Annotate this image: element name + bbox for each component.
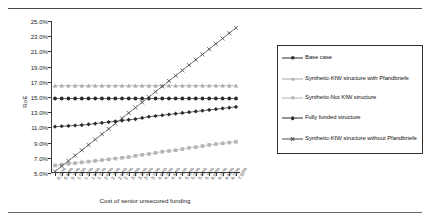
- legend-item-1[interactable]: Synthetic-KfW structure with Pfandbriefe: [282, 75, 419, 83]
- y-tick-mark: [48, 173, 51, 174]
- y-tick-label: 5.0%: [34, 170, 48, 177]
- y-tick-label: 15.0%: [31, 94, 48, 101]
- legend-label: Fully funded structure: [305, 114, 361, 122]
- y-tick-label: 7.0%: [34, 154, 48, 161]
- legend-item-0[interactable]: Base case: [282, 54, 419, 62]
- bottom-rule: [8, 212, 422, 213]
- series-2: [53, 140, 238, 167]
- series-1: [53, 83, 238, 87]
- legend-label: Synthetic-Not KfW structure: [305, 94, 376, 102]
- series-0: [53, 105, 238, 129]
- legend-item-2[interactable]: Synthetic-Not KfW structure: [282, 94, 419, 102]
- top-rule: [8, 8, 422, 9]
- x-axis-title: Cost of senior unsecured funding: [50, 197, 240, 204]
- legend-swatch-circle-icon: [282, 115, 303, 122]
- y-tick-label: 21.0%: [31, 48, 48, 55]
- legend-swatch-square-icon: [282, 95, 303, 102]
- legend-item-3[interactable]: Fully funded structure: [282, 114, 419, 122]
- chart-figure: RoE Cost of senior unsecured funding 25.…: [0, 0, 430, 220]
- y-tick-label: 19.0%: [31, 63, 48, 70]
- plot-area: [51, 21, 240, 173]
- y-tick-label: 11.0%: [31, 124, 48, 131]
- legend-swatch-cross-icon: [282, 136, 303, 143]
- series-layer: [51, 21, 240, 173]
- y-tick-label: 25.0%: [31, 18, 48, 25]
- legend: Base caseSynthetic-KfW structure with Pf…: [277, 45, 423, 154]
- y-tick-label: 13.0%: [31, 109, 48, 116]
- legend-label: Synthetic-KfW structure without Pfandbri…: [305, 135, 417, 143]
- legend-swatch-diamond-icon: [282, 55, 303, 62]
- legend-label: Base case: [305, 54, 332, 62]
- legend-label: Synthetic-KfW structure with Pfandbriefe: [305, 75, 409, 83]
- y-axis-title: RoE: [21, 82, 28, 122]
- legend-swatch-triangle-icon: [282, 76, 303, 83]
- y-tick-label: 9.0%: [34, 139, 48, 146]
- y-tick-label: 23.0%: [31, 33, 48, 40]
- legend-item-4[interactable]: Synthetic-KfW structure without Pfandbri…: [282, 135, 419, 143]
- y-tick-label: 17.0%: [31, 78, 48, 85]
